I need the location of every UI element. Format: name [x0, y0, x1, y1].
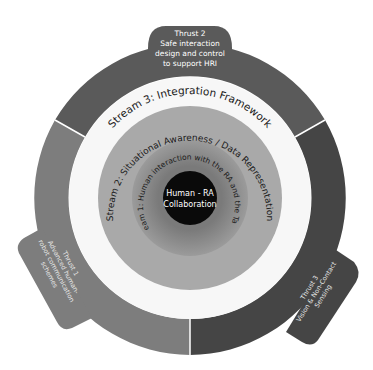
svg-text:Thrust 2: Thrust 2	[173, 29, 205, 38]
core-label-line1: Human - RA	[166, 189, 214, 198]
svg-text:to support HRI: to support HRI	[163, 59, 217, 68]
svg-text:design and control: design and control	[155, 49, 225, 58]
core-label-line2: Collaboration	[163, 200, 216, 209]
core-circle[interactable]	[163, 171, 217, 225]
svg-text:Safe interaction: Safe interaction	[160, 39, 220, 48]
framework-diagram: Stream 3: Integration Framework Stream 2…	[0, 0, 373, 370]
